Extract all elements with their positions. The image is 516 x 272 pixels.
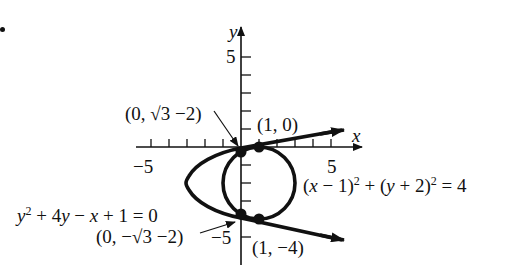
- plot-canvas: [0, 0, 516, 272]
- point-label-0-sqrt3-minus-2: (0, √3 −2): [125, 104, 202, 123]
- point-0-sqrt3-minus-2: [236, 147, 247, 158]
- point-1-neg4: [254, 214, 265, 225]
- circle-curve: [223, 147, 295, 219]
- x-axis-label: x: [352, 126, 360, 145]
- x-tick-label-neg5: −5: [133, 157, 153, 176]
- point-label-1-neg4: (1, −4): [252, 238, 304, 257]
- parabola-lower-arrow: [320, 235, 344, 240]
- point-label-1-0: (1, 0): [257, 115, 298, 134]
- y-tick-label-5: 5: [226, 47, 236, 66]
- parabola-upper-arrow: [320, 130, 344, 134]
- x-tick-label-5: 5: [327, 157, 337, 176]
- point-0-neg-sqrt3-minus-2: [236, 209, 247, 220]
- parabola-equation: y2 + 4y − x + 1 = 0: [17, 206, 158, 225]
- point-label-0-neg-sqrt3-minus-2: (0, −√3 −2): [96, 227, 183, 246]
- y-axis-label: y: [229, 22, 237, 41]
- y-tick-label-neg5: −5: [211, 228, 231, 247]
- leader-arrow-top: [214, 111, 238, 146]
- graph-figure: y 5 −5 x −5 5 (0, √3 −2) (1, 0) (0, −√3 …: [0, 0, 516, 272]
- circle-equation: (x − 1)2 + (y + 2)2 = 4: [303, 176, 467, 195]
- point-1-0: [254, 142, 265, 153]
